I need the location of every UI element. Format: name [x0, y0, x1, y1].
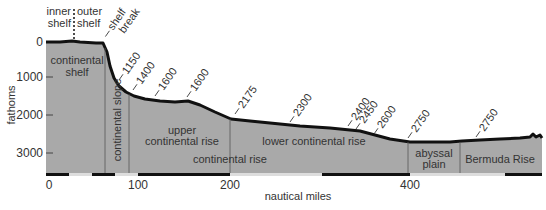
outer-shelf-label-line1: outer — [77, 5, 102, 17]
svg-text:1600: 1600 — [187, 66, 211, 93]
y-tick-3000: 3000 — [16, 146, 43, 160]
inner-shelf-label-line1: inner — [47, 5, 72, 17]
y-tick-2000: 2000 — [16, 108, 43, 122]
x-tick-200: 200 — [220, 178, 240, 192]
x-tick-100: 100 — [128, 178, 148, 192]
outer-shelf-label-line2: shelf — [77, 17, 101, 29]
region-continental-shelf-line2: shelf — [65, 66, 89, 78]
region-continental-rise: continental rise — [193, 153, 267, 165]
svg-text:2300: 2300 — [290, 91, 314, 118]
svg-text:2175: 2175 — [235, 83, 259, 110]
x-axis-label: nautical miles — [265, 190, 332, 202]
region-lower-continental-rise: lower continental rise — [262, 135, 365, 147]
svg-text:2750: 2750 — [476, 106, 500, 133]
inner-shelf-label-line2: shelf — [48, 17, 72, 29]
y-tick-0: 0 — [36, 35, 43, 49]
region-continental-slope: continental slope — [111, 79, 123, 162]
svg-text:2750: 2750 — [408, 107, 432, 134]
y-axis-label: fathoms — [5, 85, 17, 125]
region-upper-continental-rise-line2: continental rise — [145, 135, 219, 147]
distance-scale-bar — [46, 173, 542, 176]
svg-text:1600: 1600 — [155, 65, 179, 92]
depth-label-2175: 2175 — [230, 83, 259, 117]
region-bermuda-rise: Bermuda Rise — [465, 153, 535, 165]
x-tick-0: 0 — [46, 178, 53, 192]
depth-label-2750-b: 2750 — [471, 106, 500, 140]
region-continental-shelf-line1: continental — [50, 54, 103, 66]
shelf-break-label: shelf break — [100, 0, 142, 46]
region-abyssal-plain-line2: plain — [422, 158, 445, 170]
ocean-floor-profile-diagram: 0 1000 2000 3000 fathoms 0 100 200 400 n… — [0, 0, 546, 210]
depth-label-1600-b: 1600 — [182, 66, 211, 100]
depth-label-1600-a: 1600 — [150, 65, 179, 99]
y-tick-1000: 1000 — [16, 70, 43, 84]
depth-label-2300: 2300 — [285, 91, 314, 125]
x-tick-400: 400 — [400, 178, 420, 192]
depth-label-2750-a: 2750 — [403, 107, 432, 141]
